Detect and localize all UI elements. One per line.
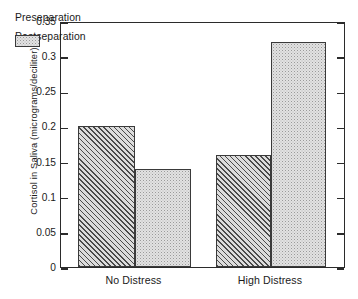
y-axis-tick-right <box>337 93 344 94</box>
y-axis-tick-right <box>337 268 344 269</box>
bar-preseparation-no-distress <box>78 126 135 267</box>
y-axis-tick-left <box>61 128 68 129</box>
y-axis-tick-label: 0 <box>24 263 56 273</box>
legend-swatch-postseparation <box>15 35 40 47</box>
y-axis-tick-label: 0.15 <box>24 158 56 168</box>
y-axis-tick-left <box>61 57 68 58</box>
bar-postseparation-high-distress <box>271 42 326 267</box>
y-axis-tick-right <box>337 163 344 164</box>
x-axis-tick-labels: No DistressHigh Distress <box>60 274 345 292</box>
y-axis-tick-right <box>337 22 344 23</box>
y-axis-tick-label: 0.1 <box>24 193 56 203</box>
legend-item-postseparation: Postseparation <box>15 28 86 45</box>
x-axis-tick-label: High Distress <box>238 274 302 286</box>
y-axis-tick-left <box>61 93 68 94</box>
legend-label-preseparation: Preseparation <box>15 12 81 23</box>
y-axis-tick-right <box>337 57 344 58</box>
legend-item-preseparation: Preseparation <box>15 9 86 26</box>
y-axis-tick-label: 0.25 <box>24 87 56 97</box>
bar-chart-figure: Cortisol in Saliva (micrograms/deciliter… <box>0 0 358 299</box>
y-axis-tick-left <box>61 163 68 164</box>
y-axis-tick-left <box>61 268 68 269</box>
x-axis-tick-label: No Distress <box>106 274 162 286</box>
y-axis-tick-left <box>61 233 68 234</box>
y-axis-tick-label: 0.2 <box>24 122 56 132</box>
y-axis-tick-right <box>337 233 344 234</box>
y-axis-tick-right <box>337 128 344 129</box>
bar-postseparation-no-distress <box>135 169 191 267</box>
plot-area <box>60 22 345 268</box>
bar-preseparation-high-distress <box>216 155 271 267</box>
chart-legend: Preseparation Postseparation <box>15 9 86 47</box>
y-axis-tick-right <box>337 198 344 199</box>
y-axis-tick-label: 0.3 <box>24 52 56 62</box>
y-axis-tick-label: 0.05 <box>24 228 56 238</box>
y-axis-tick-left <box>61 198 68 199</box>
